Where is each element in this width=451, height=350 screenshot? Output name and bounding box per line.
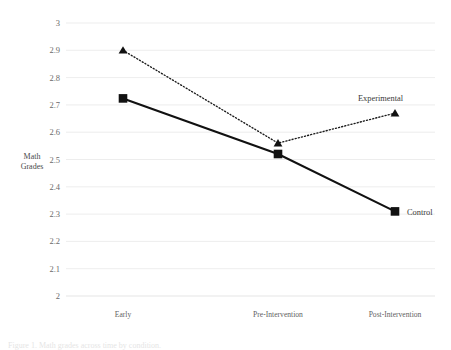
y-axis-title: Math Grades	[21, 152, 44, 171]
y-axis-title-line2: Grades	[21, 162, 44, 171]
ytick-label-2-5: 2.5	[49, 155, 60, 165]
ytick-label-2-8: 2.8	[49, 73, 60, 83]
figure-caption: Figure 1. Math grades across time by con…	[8, 341, 161, 350]
ytick-label-2-6: 2.6	[49, 127, 60, 137]
control-line	[123, 98, 395, 211]
control-marker-pre-intervention	[274, 150, 283, 159]
ytick-label-2-9: 2.9	[49, 45, 60, 55]
xtick-label-early: Early	[115, 310, 132, 319]
series-label-experimental: Experimental	[358, 94, 404, 103]
ytick-label-2-2: 2.2	[49, 236, 60, 246]
ytick-label-2-1: 2.1	[49, 264, 60, 274]
figure-container: 3 2.9 2.8 2.7 2.6 2.5 2.4 2.3 2.2 2.1 2 …	[0, 0, 451, 350]
y-axis-title-line1: Math	[24, 152, 41, 161]
ytick-label-2: 2	[56, 291, 60, 301]
experimental-line	[123, 50, 395, 143]
ytick-label-2-4: 2.4	[49, 182, 60, 192]
line-chart: 3 2.9 2.8 2.7 2.6 2.5 2.4 2.3 2.2 2.1 2 …	[0, 0, 451, 350]
ytick-label-3: 3	[56, 18, 60, 28]
x-axis-tick-labels: Early Pre-Intervention Post-Intervention	[115, 310, 422, 319]
ytick-label-2-3: 2.3	[49, 209, 60, 219]
xtick-label-post-intervention: Post-Intervention	[369, 310, 422, 319]
ytick-label-2-7: 2.7	[49, 100, 60, 110]
experimental-marker-post-intervention	[391, 109, 400, 116]
figure-caption-strip: Figure 1. Math grades across time by con…	[0, 341, 451, 350]
control-marker-post-intervention	[391, 207, 400, 216]
gridlines	[66, 23, 435, 296]
xtick-label-pre-intervention: Pre-Intervention	[253, 310, 303, 319]
series-label-control: Control	[407, 208, 433, 217]
y-axis-tick-labels: 3 2.9 2.8 2.7 2.6 2.5 2.4 2.3 2.2 2.1 2	[49, 18, 60, 301]
control-marker-early	[119, 94, 128, 103]
series-experimental: Experimental	[119, 46, 404, 146]
series-control: Control	[119, 94, 434, 217]
